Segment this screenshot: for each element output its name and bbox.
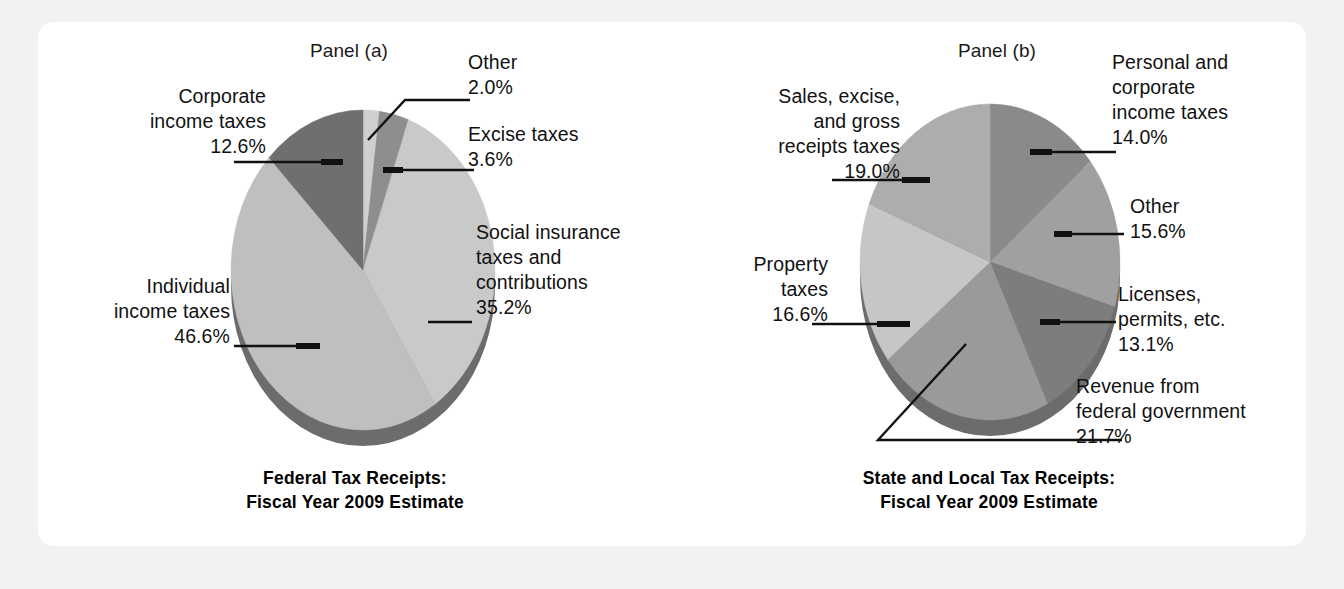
panel-b-label: Panel (b) bbox=[958, 40, 1036, 62]
label-personal-corporate-income-taxes: Personal and corporate income taxes 14.0… bbox=[1112, 50, 1306, 150]
label-individual-income-taxes: Individual income taxes 46.6% bbox=[48, 274, 230, 349]
panel-a-label: Panel (a) bbox=[310, 40, 388, 62]
panel-a: Panel (a) Corporate income taxes 12.6% O… bbox=[38, 22, 672, 546]
label-other: Other 2.0% bbox=[468, 50, 658, 100]
caption-federal: Federal Tax Receipts: Fiscal Year 2009 E… bbox=[38, 466, 672, 514]
label-licenses-permits: Licenses, permits, etc. 13.1% bbox=[1118, 282, 1306, 357]
figure-card: Panel (a) Corporate income taxes 12.6% O… bbox=[38, 22, 1306, 546]
label-revenue-federal-government: Revenue from federal government 21.7% bbox=[1076, 374, 1306, 449]
label-sales-excise-gross-receipts: Sales, excise, and gross receipts taxes … bbox=[682, 84, 900, 184]
panel-b: Panel (b) Sales, excise, and gross recei… bbox=[672, 22, 1306, 546]
caption-state-local: State and Local Tax Receipts: Fiscal Yea… bbox=[672, 466, 1306, 514]
label-corporate-income-taxes: Corporate income taxes 12.6% bbox=[56, 84, 266, 159]
figure-root: Panel (a) Corporate income taxes 12.6% O… bbox=[0, 0, 1344, 589]
label-social-insurance: Social insurance taxes and contributions… bbox=[476, 220, 672, 320]
label-property-taxes: Property taxes 16.6% bbox=[678, 252, 828, 327]
label-excise-taxes: Excise taxes 3.6% bbox=[468, 122, 658, 172]
label-other-b: Other 15.6% bbox=[1130, 194, 1306, 244]
